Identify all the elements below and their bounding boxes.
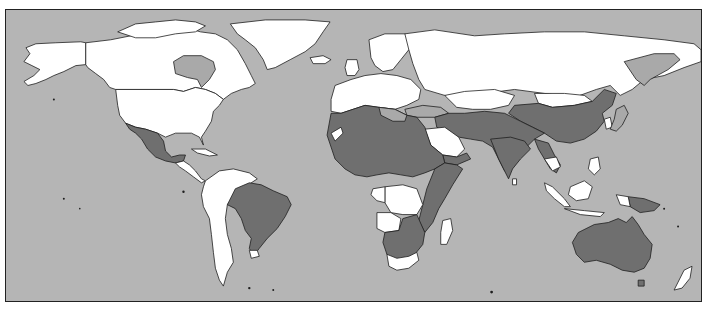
region-india: [491, 137, 531, 179]
world-map: [5, 9, 702, 302]
region-australia: [572, 217, 652, 273]
region-central-america: [176, 161, 206, 183]
islet: [248, 287, 250, 289]
region-sri-lanka: [513, 179, 517, 185]
region-indonesia-java: [564, 209, 604, 217]
region-papua-new-guinea: [628, 197, 660, 213]
region-uk: [345, 60, 359, 76]
region-gabon: [371, 187, 385, 203]
region-cuba: [191, 149, 217, 156]
region-alaska: [24, 42, 86, 86]
islet: [490, 291, 493, 294]
islet: [53, 98, 55, 100]
region-japan: [610, 105, 628, 131]
region-iceland: [310, 56, 331, 64]
region-horn-east-africa: [419, 163, 463, 233]
region-angola: [377, 213, 401, 233]
region-usa: [116, 87, 224, 145]
region-madagascar: [441, 219, 453, 245]
region-indonesia-sumatra: [544, 183, 570, 207]
region-uruguay: [249, 250, 259, 258]
region-philippines: [588, 157, 600, 175]
map-canvas: [6, 10, 701, 301]
islet: [63, 198, 65, 200]
region-brazil: [227, 183, 291, 256]
islet: [663, 208, 665, 210]
region-indonesia-borneo: [568, 181, 592, 201]
islet: [272, 289, 274, 291]
region-congo-drc: [385, 185, 423, 215]
region-canada: [86, 26, 256, 99]
region-west-papua: [616, 195, 630, 207]
region-new-zealand: [674, 266, 692, 290]
islet: [677, 226, 679, 228]
islet: [182, 191, 184, 193]
islet: [79, 208, 81, 210]
region-tasmania: [638, 280, 644, 286]
